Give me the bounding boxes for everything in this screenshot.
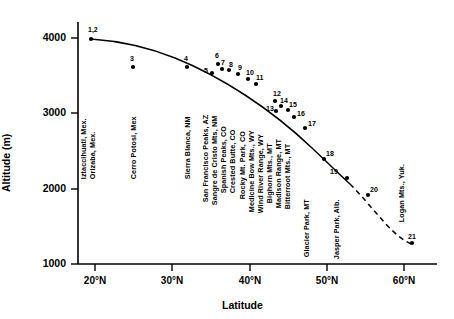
x-tick-label-20n: 20°N [72,275,118,286]
site-label-orizaba: Orizaba, Mex. [89,132,96,180]
site-label-rocky-mt-park: Rocky Mt. Park, CO [239,131,246,199]
point-number-16: 16 [297,110,305,117]
data-point [286,108,290,112]
data-point [303,126,307,130]
site-label-bitterroot: Bitterroot Mts., MT [284,144,291,209]
y-tick-label-2000: 2000 [22,182,66,194]
site-label-madison-range: Madison Range, MT [275,139,282,208]
y-tick-label-3000: 3000 [22,106,66,118]
site-label-sierra-blanca: Sierra Blanca, NM [184,116,191,179]
point-number-3: 3 [130,55,134,62]
site-label-crested-butte: Crested Butte, CO [229,130,236,194]
data-point [254,82,258,86]
y-axis-ticks [71,38,78,264]
y-axis-title: Altitude (m) [0,134,12,192]
data-point [220,67,224,71]
site-label-wind-river: Wind River Range, WY [257,134,264,213]
y-tick-label-1000: 1000 [22,257,66,269]
site-label-spanish-peaks: Spanish Peaks, CO [220,126,227,193]
site-label-iztaccihuatl: Iztaccihuatl, Mex. [80,118,87,179]
point-number-10: 10 [246,69,254,76]
point-number-15: 15 [289,101,297,108]
data-point [322,157,326,161]
point-number-9: 9 [238,64,242,71]
point-number-5: 5 [204,67,208,74]
site-label-san-francisco-peaks: San Francisco Peaks, AZ [202,115,209,203]
point-number-21: 21 [408,233,416,240]
data-point [273,99,277,103]
data-point [131,65,135,69]
x-tick-label-40n: 40°N [227,275,273,286]
x-tick-label-60n: 60°N [381,275,427,286]
point-number-1-2: 1,2 [88,26,98,33]
data-point [292,115,296,119]
point-number-18: 18 [326,150,334,157]
data-point [185,65,189,69]
site-label-jasper-park: Jasper Park, Alb. [333,199,340,259]
point-number-11: 11 [256,74,263,81]
data-point [227,68,231,72]
x-axis-title: Latitude [222,299,263,311]
point-number-12: 12 [273,90,281,97]
point-number-17: 17 [308,120,316,127]
point-number-19: 19 [330,168,338,175]
data-point [410,241,414,245]
y-tick-label-4000: 4000 [22,31,66,43]
point-number-6: 6 [215,52,219,59]
x-tick-label-30n: 30°N [149,275,195,286]
point-number-13: 13 [266,105,274,112]
site-label-medicine-bow: Medicine Bow Mts., WY [248,130,255,212]
data-point [246,77,250,81]
site-label-sangre-de-cristo: Sangre de Cristo Mts, NM [211,116,218,205]
point-number-7: 7 [221,59,225,66]
site-label-logan-mts: Logan Mts., Yuk. [398,164,405,222]
point-number-20: 20 [370,186,378,193]
x-axis-ticks [95,264,404,271]
x-tick-label-50n: 50°N [304,275,350,286]
point-number-8: 8 [229,61,233,68]
data-point [216,62,220,66]
data-point [279,104,283,108]
site-label-glacier-park: Glacier Park, MT [303,199,310,257]
data-point [274,109,278,113]
site-label-cerro-potosi: Cerro Potosi, Mex [130,116,137,179]
data-point [345,176,349,180]
point-number-4: 4 [184,55,188,62]
data-point [89,37,93,41]
data-point [366,193,370,197]
point-number-14: 14 [280,97,288,104]
data-point [236,72,240,76]
chart-figure: 4000 3000 2000 1000 20°N 30°N 40°N 50°N … [0,0,454,319]
data-point [210,71,214,75]
site-label-bighorn: Bighorn Mts., MT [266,143,273,203]
